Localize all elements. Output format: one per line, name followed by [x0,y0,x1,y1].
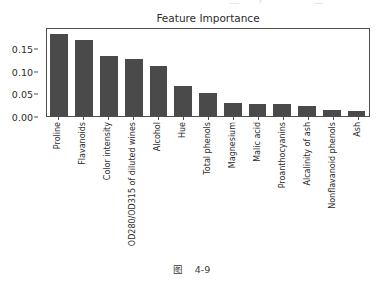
bar[interactable] [125,59,143,116]
bar[interactable] [298,106,316,116]
bar-slot [319,29,344,116]
x-axis-tick-label: Alcohol [154,122,162,151]
bar-slot [171,29,196,116]
y-axis-tick-mark [34,71,38,72]
bar-slot [47,29,72,116]
x-axis-tick-mark [108,117,109,120]
x-axis-tick-mark [308,117,309,120]
bar[interactable] [100,56,118,116]
x-axis-tick-label: Magnesium [229,122,237,168]
plot-area [46,28,370,117]
x-axis-slot: Nonflavanoid phenols [320,117,345,257]
x-axis-slot: Proanthocyanins [270,117,295,257]
bar-slot [146,29,171,116]
x-axis-tick-label: Malic acid [254,122,262,162]
y-axis-tick-label: 0.00 [12,112,33,123]
y-axis: 0.000.050.100.15 [0,0,46,291]
bar[interactable] [199,93,217,116]
bar[interactable] [50,34,68,116]
x-axis-tick-label: Total phenols [204,122,212,175]
bar[interactable] [224,103,242,116]
x-axis-slot: Alcalinity of ash [295,117,320,257]
x-axis-slot: Ash [345,117,370,257]
bar-slot [245,29,270,116]
bar[interactable] [323,110,341,116]
x-axis-slot: Alcohol [146,117,171,257]
x-axis-tick-mark [133,117,134,120]
bar-slot [295,29,320,116]
figure-caption: 图 4-9 [0,262,383,276]
bar-series [47,29,369,116]
bar-slot [196,29,221,116]
bar-slot [97,29,122,116]
x-axis-tick-label: Color intensity [104,122,112,180]
x-axis-slot: Malic acid [245,117,270,257]
x-axis-tick-mark [333,117,334,120]
bar-slot [220,29,245,116]
x-axis-tick-mark [58,117,59,120]
x-axis-slot: Total phenols [196,117,221,257]
x-axis-slot: OD280/OD315 of diluted wines [121,117,146,257]
x-axis-tick-label: Alcalinity of ash [304,122,312,186]
x-axis-slot: Color intensity [96,117,121,257]
bar-slot [72,29,97,116]
x-axis-tick-mark [83,117,84,120]
x-axis-tick-mark [183,117,184,120]
x-axis-tick-label: Proanthocyanins [279,122,287,188]
y-axis-tick-label: 0.05 [12,89,33,100]
x-axis-tick-mark [283,117,284,120]
bar-slot [270,29,295,116]
x-axis-tick-mark [258,117,259,120]
x-axis-tick-label: Nonflavanoid phenols [329,122,337,209]
y-axis-tick-mark [34,48,38,49]
bar[interactable] [348,111,366,116]
y-axis-tick-label: 0.10 [12,66,33,77]
x-axis-tick-label: Hue [179,122,187,138]
x-axis-tick-mark [208,117,209,120]
bar[interactable] [249,104,267,116]
x-axis-tick-mark [158,117,159,120]
y-axis-tick-mark [34,117,38,118]
chart-title: Feature Importance [46,12,370,24]
bar[interactable] [75,40,93,116]
x-axis-tick-label: Flavanoids [79,122,87,165]
x-axis-tick-label: Ash [354,122,362,137]
bar-slot [344,29,369,116]
x-axis-slot: Magnesium [220,117,245,257]
y-axis-tick-label: 0.15 [12,43,33,54]
x-axis-slot: Hue [171,117,196,257]
y-axis-tick-mark [34,94,38,95]
bar-slot [121,29,146,116]
x-axis: ProlineFlavanoidsColor intensityOD280/OD… [46,117,370,257]
x-axis-slot: Proline [46,117,71,257]
x-axis-tick-label: OD280/OD315 of diluted wines [129,122,137,246]
bar[interactable] [273,104,291,116]
x-axis-slot: Flavanoids [71,117,96,257]
bar[interactable] [174,86,192,116]
feature-importance-figure: Feature Importance 0.000.050.100.15 Prol… [0,0,383,291]
x-axis-tick-mark [358,117,359,120]
bar[interactable] [150,66,168,116]
x-axis-tick-mark [233,117,234,120]
x-axis-tick-label: Proline [54,122,62,149]
